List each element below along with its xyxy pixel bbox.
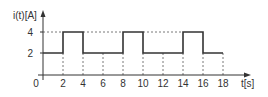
current-step-chart: i(t)[A] 4 2 0 2 4 6 8 10 12 14 16 18 t[s…	[0, 0, 268, 97]
y-tick-2: 2	[27, 48, 33, 59]
x-tick-12: 12	[157, 78, 169, 89]
x-tick-labels: 2 4 6 8 10 12 14 16 18	[60, 78, 229, 89]
x-tick-16: 16	[197, 78, 209, 89]
axes	[38, 14, 246, 80]
x-axis-arrow-icon	[244, 73, 251, 78]
y-axis-arrow-icon	[41, 10, 46, 17]
current-waveform	[43, 32, 223, 53]
y-tick-4: 4	[27, 27, 33, 38]
x-tick-6: 6	[100, 78, 106, 89]
y-axis-label: i(t)[A]	[13, 10, 37, 21]
x-tick-14: 14	[177, 78, 189, 89]
x-tick-8: 8	[120, 78, 126, 89]
x-tick-18: 18	[217, 78, 229, 89]
x-axis-label: t[s]	[241, 78, 255, 89]
x-tick-4: 4	[80, 78, 86, 89]
origin-label: 0	[33, 78, 39, 89]
dashed-guides	[43, 32, 223, 75]
x-tick-2: 2	[60, 78, 66, 89]
x-tick-10: 10	[137, 78, 149, 89]
